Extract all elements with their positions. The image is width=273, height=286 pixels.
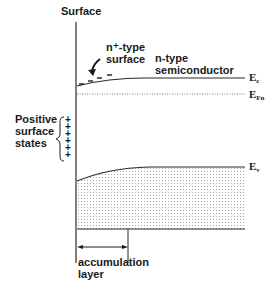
accumulation-layer-label-line1: accumulation [78, 257, 149, 268]
efn-label: EFn [249, 88, 265, 102]
ec-subscript: c [256, 77, 259, 85]
n-plus-type-label-line1: n⁺-type [106, 42, 145, 53]
efn-subscript: Fn [256, 94, 264, 102]
positive-states-label-line1: Positive [15, 114, 57, 125]
curved-arrow-icon [88, 59, 100, 76]
conduction-band-edge [77, 78, 245, 86]
n-plus-type-label-line2: surface [106, 54, 145, 65]
ev-subscript: v [256, 166, 260, 174]
valence-band-fill [77, 167, 245, 229]
band-diagram: Surface n⁺-type surface n-type semicondu… [0, 0, 273, 286]
surface-electrons [79, 75, 112, 84]
ec-label: Ec [249, 71, 259, 85]
brace-icon [56, 117, 64, 161]
double-arrow-icon [77, 245, 128, 249]
ev-label: Ev [249, 160, 260, 174]
plus-icon: + [65, 151, 71, 158]
n-type-label-line2: semiconductor [155, 65, 234, 76]
surface-label: Surface [61, 6, 101, 17]
positive-states-label-line3: states [15, 138, 47, 149]
positive-states-label-line2: surface [15, 126, 54, 137]
n-type-label-line1: n-type [155, 53, 188, 64]
accumulation-layer-label-line2: layer [78, 269, 104, 280]
